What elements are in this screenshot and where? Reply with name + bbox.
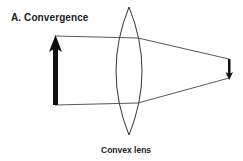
object-arrow-icon (49, 35, 62, 105)
image-arrow-icon (226, 59, 234, 80)
diagram-canvas (0, 0, 243, 161)
top-ray (55, 36, 229, 59)
convergence-diagram: A. Convergence Convex lens (0, 0, 243, 161)
convex-lens-shape (116, 7, 142, 135)
diagram-title: A. Convergence (11, 12, 89, 23)
lens-label: Convex lens (101, 145, 151, 155)
